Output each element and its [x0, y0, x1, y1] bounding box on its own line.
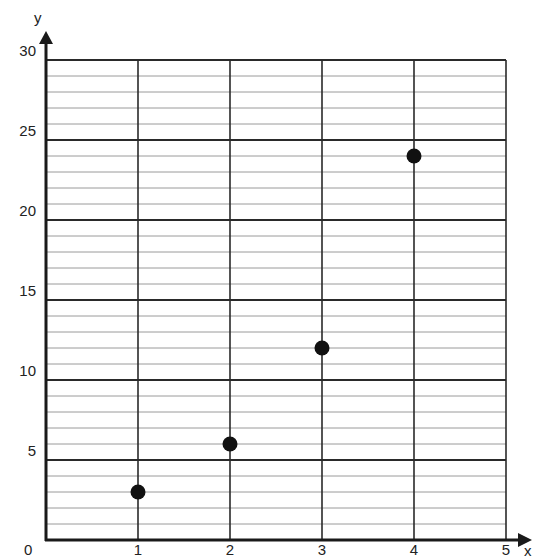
data-point	[315, 341, 330, 356]
x-tick-label: 2	[226, 541, 234, 558]
x-tick-label: 1	[134, 541, 142, 558]
y-axis-arrow-icon	[39, 31, 53, 44]
data-point	[131, 485, 146, 500]
data-point	[223, 437, 238, 452]
y-tick-label: 20	[19, 202, 36, 219]
y-tick-label: 10	[19, 362, 36, 379]
y-tick-label: 15	[19, 282, 36, 299]
y-tick-label: 5	[28, 442, 36, 459]
y-tick-label: 30	[19, 42, 36, 59]
x-tick-label: 3	[318, 541, 326, 558]
data-point	[407, 149, 422, 164]
scatter-chart: 1234551015202530 x y 0	[0, 0, 542, 559]
major-grid	[46, 60, 506, 540]
y-axis-label: y	[34, 9, 42, 26]
origin-label: 0	[24, 541, 32, 558]
x-axis-label: x	[524, 542, 532, 559]
x-tick-label: 5	[502, 541, 510, 558]
data-points	[131, 149, 422, 500]
y-tick-label: 25	[19, 122, 36, 139]
x-tick-label: 4	[410, 541, 418, 558]
